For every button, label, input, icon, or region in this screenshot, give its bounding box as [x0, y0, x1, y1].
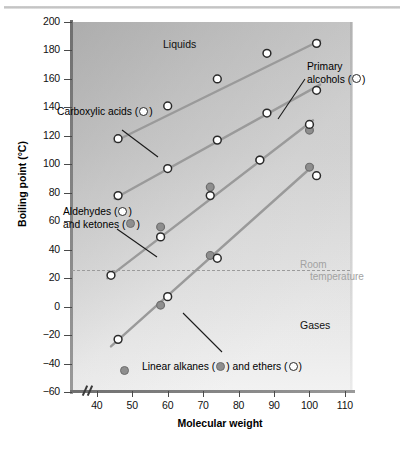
- legend-alkanes-text: Linear alkanes (: [142, 361, 215, 372]
- callout-primary-alcohols: Primary alcohols (): [307, 61, 366, 86]
- callout-aldehydes-line1: Aldehydes (: [63, 206, 117, 217]
- y-tick-label: 200: [22, 15, 60, 27]
- x-tick: [97, 391, 98, 397]
- x-axis-line: [70, 390, 355, 393]
- y-tick-label: 140: [22, 100, 60, 112]
- callout-primary-alcohols-line1: Primary: [307, 61, 342, 72]
- x-tick: [239, 391, 240, 397]
- callout-ketones-line2-tail: ): [136, 219, 139, 230]
- callout-primary-alcohols-line2-tail: ): [362, 74, 365, 85]
- region-label-liquids: Liquids: [163, 38, 196, 50]
- y-tick: [64, 392, 72, 393]
- y-tick: [64, 136, 72, 137]
- room-temperature-label-line2: temperature: [310, 271, 364, 283]
- x-tick-label: 70: [188, 399, 218, 411]
- y-tick: [64, 364, 72, 365]
- y-tick-label: −20: [22, 328, 60, 340]
- legend-mid-text: ) and ethers (: [226, 361, 287, 372]
- y-tick: [64, 79, 72, 80]
- x-tick: [274, 391, 275, 397]
- y-tick-label: −40: [22, 357, 60, 369]
- callout-aldehydes-line1-tail: ): [128, 206, 131, 217]
- x-tick: [345, 391, 346, 397]
- filled-marker-icon: [216, 362, 225, 371]
- y-tick: [64, 335, 72, 336]
- legend-end-text: ): [299, 361, 302, 372]
- callout-ketones-line2: and ketones (: [63, 219, 125, 230]
- callout-carboxylic-acids-tail: ): [149, 106, 152, 117]
- open-marker-icon: [352, 74, 361, 83]
- region-label-gases: Gases: [300, 319, 330, 331]
- callout-aldehydes-ketones: Aldehydes () and ketones (): [63, 206, 140, 231]
- callout-carboxylic-acids: Carboxylic acids (): [57, 106, 153, 119]
- y-tick-label: 20: [22, 271, 60, 283]
- y-tick: [64, 193, 72, 194]
- x-tick-label: 100: [294, 399, 324, 411]
- y-tick: [64, 278, 72, 279]
- legend-filled-dot-icon: [120, 366, 129, 375]
- legend-alkanes-ethers: Linear alkanes () and ethers (): [142, 361, 302, 372]
- x-tick-label: 60: [153, 399, 183, 411]
- x-tick-label: 90: [259, 399, 289, 411]
- y-tick: [64, 164, 72, 165]
- x-tick: [309, 391, 310, 397]
- filled-marker-icon: [126, 219, 135, 228]
- callout-primary-alcohols-line2: alcohols (: [307, 74, 351, 85]
- open-marker-icon: [289, 362, 298, 371]
- y-tick-label: 160: [22, 72, 60, 84]
- x-axis-title: Molecular weight: [120, 417, 320, 429]
- callout-carboxylic-acids-text: Carboxylic acids (: [57, 106, 138, 117]
- y-tick-label: 0: [22, 300, 60, 312]
- y-tick-label: −60: [22, 385, 60, 397]
- y-tick: [64, 307, 72, 308]
- x-tick: [203, 391, 204, 397]
- x-tick: [168, 391, 169, 397]
- figure-root: 200180160140120100806040200−20−40−60 405…: [0, 0, 404, 449]
- x-tick-label: 50: [117, 399, 147, 411]
- y-tick: [64, 22, 72, 23]
- y-tick-label: 40: [22, 243, 60, 255]
- open-marker-icon: [118, 207, 127, 216]
- room-temperature-label: Room temperature: [300, 259, 390, 283]
- x-tick-label: 110: [330, 399, 360, 411]
- open-marker-icon: [139, 107, 148, 116]
- x-tick-label: 80: [224, 399, 254, 411]
- top-divider: [4, 6, 400, 9]
- x-tick-label: 40: [82, 399, 112, 411]
- x-tick: [132, 391, 133, 397]
- y-tick: [64, 50, 72, 51]
- y-axis-title: Boiling point (°C): [16, 124, 28, 244]
- room-temperature-label-line1: Room: [300, 259, 327, 270]
- y-tick-label: 180: [22, 43, 60, 55]
- y-tick: [64, 250, 72, 251]
